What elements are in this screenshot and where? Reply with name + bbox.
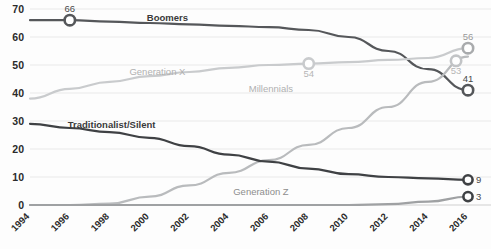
x-axis-tick-labels: 1994199619982000200220042006200820102012… [9, 210, 470, 233]
x-axis-tick-label: 1998 [88, 211, 111, 234]
x-axis-tick-label: 2002 [168, 211, 191, 234]
y-axis-tick-label: 70 [12, 3, 24, 15]
data-point-value-label: 41 [463, 73, 474, 84]
chart-canvas: 010203040506070 199419961998200020022004… [0, 0, 491, 249]
data-point-marker [463, 85, 473, 95]
series-inline-labels: BoomersGeneration XMillennialsTraditiona… [68, 12, 294, 197]
y-axis-tick-label: 50 [12, 59, 24, 71]
y-axis-tick-label: 10 [12, 171, 24, 183]
x-axis-tick-label: 2012 [367, 211, 390, 234]
gridlines-group [30, 9, 491, 205]
data-point-marker [463, 175, 472, 184]
series-label-millennials: Millennials [249, 83, 294, 94]
x-axis-tick-label: 1996 [49, 211, 72, 234]
series-label-boomers: Boomers [147, 12, 188, 23]
y-axis-tick-label: 60 [12, 31, 24, 43]
y-axis-tick-label: 30 [12, 115, 24, 127]
data-point-markers [65, 15, 474, 201]
x-axis-tick-label: 2010 [327, 211, 350, 234]
y-axis-tick-label: 20 [12, 143, 24, 155]
x-axis-tick-label: 2004 [208, 210, 231, 233]
y-axis-tick-labels: 010203040506070 [12, 3, 24, 211]
data-point-value-label: 66 [65, 3, 76, 14]
y-axis-tick-label: 0 [18, 199, 24, 211]
x-axis-tick-label: 2014 [407, 210, 430, 233]
x-axis-tick-label: 2008 [287, 211, 310, 234]
data-point-marker [65, 15, 75, 25]
data-point-value-labels: 664154565393 [65, 3, 482, 202]
series-label-traditionalist-silent: Traditionalist/Silent [68, 119, 156, 130]
x-axis-tick-label: 1994 [9, 210, 32, 233]
line-chart-generations: 010203040506070 199419961998200020022004… [0, 0, 491, 249]
data-point-marker [463, 43, 473, 53]
x-axis-tick-label: 2000 [128, 211, 151, 234]
x-axis-tick-label: 2006 [248, 211, 271, 234]
series-label-generation-x: Generation X [129, 66, 186, 77]
data-point-value-label: 54 [303, 68, 314, 79]
data-point-marker [463, 192, 472, 201]
y-axis-tick-label: 40 [12, 87, 24, 99]
data-point-value-label: 9 [476, 174, 481, 185]
data-point-value-label: 56 [463, 31, 474, 42]
x-axis-tick-label: 2016 [447, 211, 470, 234]
data-point-value-label: 53 [451, 65, 462, 76]
series-label-generation-z: Generation Z [233, 186, 289, 197]
data-point-value-label: 3 [476, 191, 481, 202]
series-line-traditionalist-silent [30, 124, 468, 180]
series-line-boomers [30, 20, 468, 90]
